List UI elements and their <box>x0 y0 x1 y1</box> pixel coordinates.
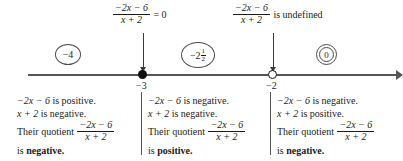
quotient-prefix: Their quotient <box>277 126 334 137</box>
numerator-expression: −2x − 6 <box>277 95 310 106</box>
quotient-fraction: −2x − 6 x + 2 <box>208 120 245 143</box>
denominator-expression: x + 2 <box>277 108 298 119</box>
undefined-condition-label: −2x − 6 x + 2 is undefined <box>232 4 323 27</box>
denominator-sign-statement: x + 2 is negative. <box>17 107 137 120</box>
zero-condition-label: −2x − 6 x + 2 = 0 <box>112 4 167 27</box>
section-divider-left <box>141 92 142 155</box>
denominator-sign-statement: x + 2 is positive. <box>277 107 397 120</box>
test-value-middle: −212 <box>181 42 215 68</box>
quotient-fraction: −2x − 6 x + 2 <box>337 120 374 143</box>
conclusion-statement: is negative. <box>17 144 137 157</box>
denominator-sign-text: is negative. <box>38 108 86 119</box>
quotient-fraction: −2x − 6 x + 2 <box>77 120 114 143</box>
number-line-axis <box>28 74 400 76</box>
numerator-sign-statement: −2x − 6 is positive. <box>17 94 137 107</box>
zero-condition-denominator: x + 2 <box>113 15 150 26</box>
tick-label-neg2: −2 <box>266 80 277 91</box>
quotient-prefix: Their quotient <box>17 126 74 137</box>
test-value-left-label: −4 <box>63 49 74 60</box>
zero-condition-relation: = 0 <box>153 9 166 20</box>
numerator-sign-text: is negative. <box>181 95 229 106</box>
undefined-condition-fraction: −2x − 6 x + 2 <box>233 3 270 26</box>
test-value-left: −4 <box>55 44 81 65</box>
quotient-denominator: x + 2 <box>337 132 374 143</box>
zero-condition-fraction: −2x − 6 x + 2 <box>113 3 150 26</box>
conclusion-sign: positive. <box>157 145 192 156</box>
denominator-sign-text: is negative. <box>169 108 217 119</box>
conclusion-prefix: is <box>17 145 26 156</box>
conclusion-statement: is negative. <box>277 144 397 157</box>
test-value-middle-fraction: 12 <box>201 48 207 63</box>
test-value-right-inner-ring: 0 <box>319 47 334 62</box>
numerator-sign-text: is positive. <box>50 95 96 106</box>
zero-pointer-arrow-icon <box>139 33 148 73</box>
conclusion-prefix: is <box>277 145 286 156</box>
denominator-sign-text: is positive. <box>298 108 344 119</box>
denominator-sign-statement: x + 2 is negative. <box>148 107 266 120</box>
undefined-pointer-arrow-icon <box>269 33 278 73</box>
conclusion-sign: negative. <box>286 145 324 156</box>
conclusion-statement: is positive. <box>148 144 266 157</box>
undefined-condition-denominator: x + 2 <box>233 15 270 26</box>
test-value-right: 0 <box>316 44 337 65</box>
conclusion-prefix: is <box>148 145 157 156</box>
numerator-sign-text: is negative. <box>310 95 358 106</box>
denominator-expression: x + 2 <box>148 108 169 119</box>
mixed-fraction-denominator: 2 <box>201 56 207 63</box>
quotient-statement: Their quotient −2x − 6 x + 2 <box>148 121 266 144</box>
numerator-expression: −2x − 6 <box>17 95 50 106</box>
conclusion-sign: negative. <box>26 145 64 156</box>
explanation-block-right: −2x − 6 is negative. x + 2 is positive. … <box>277 94 397 157</box>
test-value-right-label: 0 <box>324 50 329 60</box>
quotient-statement: Their quotient −2x − 6 x + 2 <box>17 121 137 144</box>
undefined-condition-relation: is undefined <box>273 9 322 20</box>
test-value-middle-label: −2 <box>190 50 201 61</box>
numerator-expression: −2x − 6 <box>148 95 181 106</box>
arrow-stem <box>273 33 274 68</box>
arrow-stem <box>143 33 144 68</box>
number-line-point-open-circle-icon <box>268 70 277 79</box>
tick-label-neg3: −3 <box>136 80 147 91</box>
explanation-block-left: −2x − 6 is positive. x + 2 is negative. … <box>17 94 137 157</box>
numerator-sign-statement: −2x − 6 is negative. <box>148 94 266 107</box>
quotient-statement: Their quotient −2x − 6 x + 2 <box>277 121 397 144</box>
quotient-prefix: Their quotient <box>148 126 205 137</box>
number-line-right-arrow-icon <box>396 70 403 80</box>
number-line-point-filled-dot-icon <box>138 70 147 79</box>
explanation-block-middle: −2x − 6 is negative. x + 2 is negative. … <box>148 94 266 157</box>
numerator-sign-statement: −2x − 6 is negative. <box>277 94 397 107</box>
sign-chart-figure: −2x − 6 x + 2 = 0 −2x − 6 x + 2 is undef… <box>0 0 403 161</box>
quotient-denominator: x + 2 <box>208 132 245 143</box>
quotient-denominator: x + 2 <box>77 132 114 143</box>
denominator-expression: x + 2 <box>17 108 38 119</box>
section-divider-right <box>270 92 271 155</box>
